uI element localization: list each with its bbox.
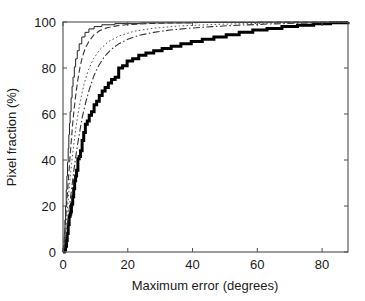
cumulative-error-chart: 020406080020406080100 Maximum error (deg… xyxy=(0,0,365,301)
x-tick-label: 80 xyxy=(315,257,329,272)
y-tick-label: 0 xyxy=(49,245,56,260)
x-axis-title: Maximum error (degrees) xyxy=(132,278,279,293)
y-tick-label: 20 xyxy=(42,199,56,214)
y-tick-label: 100 xyxy=(34,15,56,30)
x-tick-label: 20 xyxy=(121,257,135,272)
x-tick-label: 0 xyxy=(59,257,66,272)
y-axis-title: Pixel fraction (%) xyxy=(4,88,19,186)
x-tick-label: 40 xyxy=(185,257,199,272)
y-tick-label: 80 xyxy=(42,61,56,76)
chart-figure: 020406080020406080100 Maximum error (deg… xyxy=(0,0,365,301)
y-tick-label: 60 xyxy=(42,107,56,122)
y-tick-label: 40 xyxy=(42,153,56,168)
x-tick-label: 60 xyxy=(250,257,264,272)
